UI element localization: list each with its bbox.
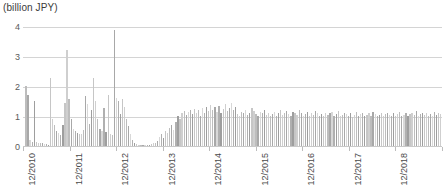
bar [208,111,209,147]
bar [284,113,285,148]
bar [387,113,388,147]
bar [299,110,300,147]
bar [268,113,269,148]
bar [128,126,129,147]
bar [206,107,207,148]
bar [305,114,306,147]
bar [218,106,219,147]
bar [301,113,302,148]
bar [372,112,373,147]
bar [292,112,293,147]
bar [243,113,244,147]
bar [393,113,394,148]
bar [25,86,26,148]
bar [89,124,90,147]
bar [401,116,402,147]
bar [118,101,119,148]
bar [364,116,365,147]
x-axis: 12/201012/201112/201212/201312/201412/20… [23,147,442,196]
bar [171,125,172,148]
bar [101,131,102,148]
bar [66,50,67,148]
x-axis-tick [209,147,210,151]
bar [360,114,361,147]
bar [198,110,199,147]
bar [395,116,396,148]
bar [235,107,236,148]
bar [315,111,316,147]
bar [282,115,283,147]
bar [85,96,86,147]
bar [405,113,406,147]
x-axis-tick-label: 12/2017 [353,153,363,186]
bar [420,114,421,147]
bar [110,134,111,148]
bar [370,116,371,148]
bar [313,115,314,147]
bar [274,112,275,147]
bar [188,112,189,147]
y-axis-unit-label: (billion JPY) [3,2,58,13]
bar [436,115,437,147]
bar [192,114,193,147]
bar [319,116,320,148]
bar [321,114,322,147]
bar [385,114,386,147]
bar [177,116,178,148]
x-axis-tick [395,147,396,151]
bar [52,119,53,148]
x-axis-tick-label: 12/2018 [399,153,409,186]
bar [391,116,392,147]
bar [340,116,341,147]
bar [105,132,106,147]
bar [241,112,242,147]
bar [331,112,332,147]
bar [383,116,384,148]
y-axis: 01234 [0,27,20,147]
bar [173,130,174,147]
bar [62,125,63,148]
bar [220,113,221,148]
x-axis-tick-label: 12/2011 [74,153,84,185]
bar [214,107,215,147]
chart-container: (billion JPY) 01234 12/201012/201112/201… [0,0,445,196]
x-axis-tick-label: 12/2016 [306,153,316,186]
bar [97,119,98,148]
bar [225,104,226,147]
bar [200,116,201,148]
bar [58,133,59,147]
x-axis-tick [23,147,24,151]
bar [91,110,92,148]
bar [438,113,439,147]
bar [424,115,425,147]
bar [356,112,357,147]
bar [202,108,203,147]
bar [99,129,100,147]
x-axis-tick-label: 12/2015 [260,153,270,186]
bar [50,78,51,147]
bar [403,115,404,147]
bar [434,112,435,147]
bar [272,114,273,147]
bar [71,119,72,147]
bar [426,113,427,148]
bar [77,133,78,147]
bar [294,113,295,147]
bar [379,115,380,147]
bar [366,115,367,147]
bar [309,116,310,147]
bar [266,115,267,147]
bar [407,116,408,148]
bar [87,104,88,148]
bar [253,111,254,147]
bar [54,125,55,147]
bar [175,122,176,147]
bar [286,111,287,147]
bar [440,114,441,147]
x-axis-tick [442,147,443,151]
x-axis-tick-label: 12/2014 [213,153,223,186]
bar [428,116,429,147]
x-axis-tick [70,147,71,151]
bar [120,114,121,147]
bar [342,115,343,147]
